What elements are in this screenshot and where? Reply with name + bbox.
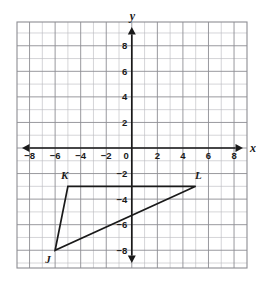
- axis-names-group: yx: [128, 9, 256, 155]
- figure-canvas: −8−6−4−2024688642−2−4−6−8 JKL yx: [0, 0, 271, 286]
- x-tick-label: −4: [75, 150, 87, 161]
- x-tick-label: 6: [206, 150, 211, 161]
- y-tick-label: 4: [122, 91, 128, 102]
- x-tick-label: 0: [124, 150, 129, 161]
- y-axis-arrow-down: [128, 256, 136, 264]
- x-tick-label: −6: [50, 150, 61, 161]
- y-axis-name: y: [128, 9, 136, 23]
- x-tick-label: 8: [231, 150, 236, 161]
- y-tick-label: −4: [116, 194, 128, 205]
- y-tick-label: 2: [122, 117, 127, 128]
- x-tick-label: −2: [101, 150, 112, 161]
- x-axis-name: x: [249, 141, 256, 155]
- y-tick-label: 8: [122, 40, 127, 51]
- y-tick-label: −8: [116, 245, 127, 256]
- y-axis-arrow-up: [128, 27, 136, 35]
- vertex-label-k: K: [60, 169, 69, 181]
- x-tick-label: 2: [155, 150, 160, 161]
- y-tick-label: −2: [116, 168, 127, 179]
- coordinate-plane-svg: −8−6−4−2024688642−2−4−6−8 JKL yx: [0, 0, 271, 286]
- vertex-label-j: J: [44, 253, 51, 265]
- y-tick-label: 6: [122, 66, 127, 77]
- x-tick-label: 4: [180, 150, 186, 161]
- x-tick-label: −8: [24, 150, 35, 161]
- vertex-label-l: L: [194, 169, 202, 181]
